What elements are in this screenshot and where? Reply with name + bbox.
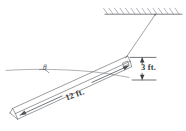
ladder-group	[10, 56, 132, 119]
ladder-diagram-figure: 3 ft. 12 ft. θ	[0, 0, 186, 131]
ladder-cap-upper-a	[128, 56, 131, 61]
ladder-rope-bracket	[123, 61, 129, 66]
angle-theta-label: θ	[43, 64, 47, 72]
ladder-cap-lower-c	[10, 108, 13, 113]
dim-arrowhead-lower	[140, 75, 145, 80]
ceiling-group	[104, 8, 183, 14]
ceiling-hatching	[104, 8, 180, 14]
dim-length-leader-right	[92, 66, 129, 83]
ladder-cap-upper-b	[130, 61, 131, 67]
rope-line	[126, 15, 155, 57]
diagram-canvas	[0, 0, 186, 131]
rope-ceiling-anchor	[154, 14, 156, 16]
dim-length-leader-left	[20, 96, 62, 115]
rope-group	[126, 14, 156, 57]
height-dimension-label: 3 ft.	[141, 63, 156, 72]
ladder-cap-lower-a	[13, 108, 16, 113]
